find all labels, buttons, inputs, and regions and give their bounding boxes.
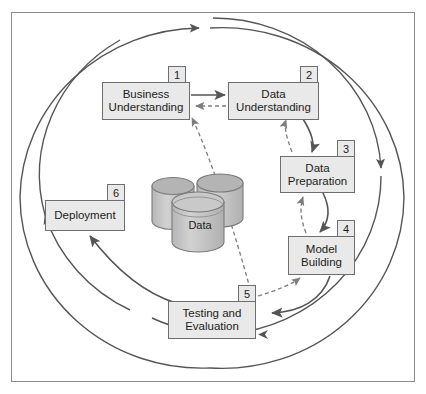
phase-number-3: 3 [337, 140, 355, 157]
flow-arrow-4-to-5 [272, 276, 330, 313]
phase-box-testing-and-evaluation[interactable]: Testing and Evaluation [168, 301, 256, 339]
phase-label-business-understanding: Business Understanding [106, 88, 187, 114]
phase-box-deployment[interactable]: Deployment [45, 200, 125, 231]
phase-label-data-understanding: Data Understanding [233, 88, 314, 114]
phase-box-data-understanding[interactable]: Data Understanding [228, 82, 319, 120]
phase-box-business-understanding[interactable]: Business Understanding [102, 82, 190, 120]
phase-label-data-preparation: Data Preparation [285, 162, 350, 188]
phase-label-testing-and-evaluation: Testing and Evaluation [180, 307, 245, 333]
phase-number-2: 2 [300, 66, 318, 83]
flow-arrow-5-to-6 [90, 236, 176, 303]
phase-label-model-building: Model Building [298, 243, 345, 269]
flow-arrow-2-to-3 [303, 119, 313, 152]
phase-number-6: 6 [107, 184, 125, 201]
inner-ring-bottom-arrow [258, 330, 268, 339]
diagram-canvas: Data 1 Business Understanding 2 Data Und… [0, 0, 426, 394]
feedback-arrow-4-to-3 [301, 197, 306, 233]
feedback-arrow-3-to-2 [285, 120, 292, 152]
database-label: Data [177, 219, 223, 231]
phase-box-data-preparation[interactable]: Data Preparation [280, 156, 355, 193]
flow-arrow-3-to-4 [320, 193, 328, 232]
phase-number-5: 5 [238, 285, 256, 302]
phase-number-4: 4 [337, 220, 355, 237]
feedback-arrow-5-to-4 [258, 278, 300, 296]
phase-label-deployment: Deployment [51, 209, 118, 222]
phase-number-1: 1 [168, 66, 186, 83]
phase-box-model-building[interactable]: Model Building [288, 236, 355, 275]
database-cylinder-stack-icon [152, 174, 243, 252]
